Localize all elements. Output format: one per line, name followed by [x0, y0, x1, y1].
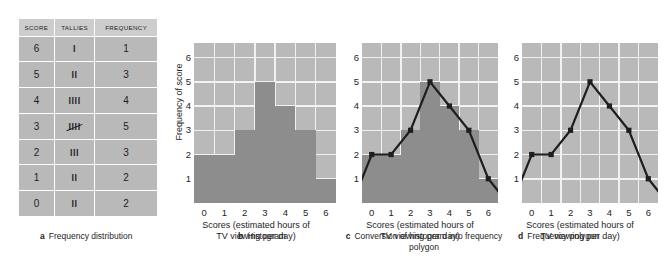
- histogram-bar: [235, 130, 255, 203]
- table-body: SCORE TALLIES FREQUENCY 6 l 1 5 ll 3 4 l…: [19, 19, 157, 216]
- x-axis-tick-label: 3: [587, 208, 592, 218]
- tally-marks: ll: [71, 199, 77, 209]
- y-axis-tick-label: 5: [505, 77, 519, 87]
- cell-tallies: l: [55, 37, 94, 62]
- panel-a-frequency-distribution: SCORE TALLIES FREQUENCY 6 l 1 5 ll 3 4 l…: [18, 18, 158, 217]
- x-axis-tick-label: 5: [303, 208, 308, 218]
- tally-marks: ll: [71, 173, 77, 183]
- caption-d: dFrequency polygon: [518, 231, 665, 242]
- histogram-polygon-plot-area: [362, 43, 498, 203]
- cell-frequency: 4: [95, 88, 157, 113]
- histogram-bar: [194, 155, 214, 203]
- data-point-marker: [369, 152, 374, 157]
- table-row: 4 llll 4: [19, 88, 157, 113]
- data-point-marker: [626, 128, 631, 133]
- y-axis-tick-label: 5: [177, 77, 191, 87]
- cell-score: 1: [19, 165, 54, 190]
- tally-marks-crossed: llll: [68, 122, 80, 132]
- x-axis-tick-label: 6: [323, 208, 328, 218]
- cell-tallies: llll: [55, 114, 94, 139]
- x-axis-label-line1: Scores (estimated hours of: [500, 220, 660, 231]
- y-axis-tick-label: 2: [345, 150, 359, 160]
- cell-frequency: 3: [95, 140, 157, 165]
- x-axis-tick-label: 5: [626, 208, 631, 218]
- y-axis-tick-label: 1: [177, 174, 191, 184]
- x-axis-tick-label: 5: [466, 208, 471, 218]
- y-axis-tick-label: 2: [177, 150, 191, 160]
- histogram-bar: [316, 179, 336, 203]
- data-point-marker: [466, 128, 471, 133]
- statistics-figure: SCORE TALLIES FREQUENCY 6 l 1 5 ll 3 4 l…: [0, 0, 665, 261]
- data-point-marker: [408, 128, 413, 133]
- cell-frequency: 5: [95, 114, 157, 139]
- table-header-row: SCORE TALLIES FREQUENCY: [19, 19, 157, 36]
- y-axis-tick-label: 6: [505, 53, 519, 63]
- cell-tallies: ll: [55, 165, 94, 190]
- frequency-polygon-line: [362, 43, 498, 203]
- caption-d-letter: d: [518, 231, 523, 241]
- column-header-tallies: TALLIES: [55, 19, 94, 36]
- x-axis-label-line1: Scores (estimated hours of: [172, 220, 340, 231]
- cell-score: 3: [19, 114, 54, 139]
- panel-d-frequency-polygon: 1234560123456Scores (estimated hours ofT…: [500, 18, 660, 217]
- table-row: 3 llll 5: [19, 114, 157, 139]
- histogram-plot-area: [194, 43, 336, 203]
- x-axis-tick-label: 1: [388, 208, 393, 218]
- y-axis-tick-label: 4: [345, 101, 359, 111]
- data-point-marker: [549, 152, 554, 157]
- histogram-bar: [214, 155, 234, 203]
- data-point-marker: [486, 176, 491, 181]
- x-axis-tick-label: 2: [568, 208, 573, 218]
- x-axis-tick-label: 2: [242, 208, 247, 218]
- cell-tallies: ll: [55, 191, 94, 216]
- y-axis-tick-label: 3: [505, 126, 519, 136]
- caption-a-letter: a: [40, 231, 45, 241]
- y-axis-tick-label: 3: [345, 126, 359, 136]
- table-row: 2 lll 3: [19, 140, 157, 165]
- tally-marks: l: [73, 44, 76, 54]
- caption-c-letter: c: [346, 231, 351, 241]
- cell-score: 6: [19, 37, 54, 62]
- cell-tallies: ll: [55, 62, 94, 87]
- histogram-bar: [275, 106, 295, 203]
- cell-score: 2: [19, 140, 54, 165]
- table-row: 5 ll 3: [19, 62, 157, 87]
- data-point-marker: [607, 103, 612, 108]
- data-point-marker: [447, 103, 452, 108]
- cell-score: 4: [19, 88, 54, 113]
- caption-a: aFrequency distribution: [40, 231, 190, 242]
- data-point-marker: [427, 79, 432, 84]
- frequency-polygon-line: [522, 43, 658, 203]
- x-axis-tick-label: 0: [201, 208, 206, 218]
- y-axis-tick-label: 5: [345, 77, 359, 87]
- x-axis-tick-label: 4: [607, 208, 612, 218]
- tally-marks: ll: [71, 70, 77, 80]
- caption-a-text: Frequency distribution: [49, 231, 133, 241]
- caption-d-text: Frequency polygon: [527, 231, 599, 241]
- x-axis-tick-label: 1: [222, 208, 227, 218]
- frequency-polygon-plot-area: [522, 43, 658, 203]
- x-axis-tick-label: 6: [486, 208, 491, 218]
- x-axis-tick-label: 0: [369, 208, 374, 218]
- tally-marks: lll: [70, 148, 79, 158]
- cell-tallies: lll: [55, 140, 94, 165]
- cell-frequency: 1: [95, 37, 157, 62]
- caption-c-text: Conversion of histogram into frequency p…: [354, 231, 502, 252]
- column-header-score: SCORE: [19, 19, 54, 36]
- x-axis-tick-label: 6: [646, 208, 651, 218]
- y-axis-tick-label: 3: [177, 126, 191, 136]
- x-axis-tick-label: 4: [283, 208, 288, 218]
- data-point-marker: [389, 152, 394, 157]
- x-axis-tick-label: 3: [427, 208, 432, 218]
- y-axis-tick-label: 2: [505, 150, 519, 160]
- caption-b-text: Histogram: [247, 231, 286, 241]
- x-axis-tick-label: 1: [548, 208, 553, 218]
- data-point-marker: [587, 79, 592, 84]
- panel-c-histogram-with-polygon: 1234560123456Scores (estimated hours ofT…: [340, 18, 500, 217]
- cell-frequency: 2: [95, 165, 157, 190]
- table-row: 1 ll 2: [19, 165, 157, 190]
- x-axis-tick-label: 3: [262, 208, 267, 218]
- y-axis-tick-label: 6: [177, 53, 191, 63]
- data-point-marker: [529, 152, 534, 157]
- table-row: 0 ll 2: [19, 191, 157, 216]
